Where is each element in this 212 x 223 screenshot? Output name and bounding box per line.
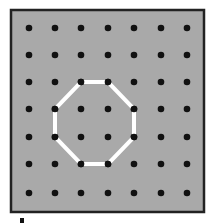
peg xyxy=(131,25,138,32)
peg xyxy=(52,190,59,197)
peg xyxy=(184,79,191,86)
peg xyxy=(52,52,59,59)
peg xyxy=(158,52,165,59)
vertex-peg xyxy=(78,79,85,86)
peg xyxy=(105,106,112,113)
peg xyxy=(78,25,85,32)
peg xyxy=(105,134,112,141)
peg xyxy=(78,52,85,59)
peg xyxy=(78,190,85,197)
vertex-peg xyxy=(131,106,138,113)
peg xyxy=(131,161,138,168)
peg xyxy=(158,25,165,32)
peg xyxy=(184,52,191,59)
peg xyxy=(158,106,165,113)
peg xyxy=(52,161,59,168)
peg xyxy=(184,106,191,113)
peg xyxy=(105,25,112,32)
peg xyxy=(131,79,138,86)
vertex-peg xyxy=(105,79,112,86)
peg xyxy=(26,52,33,59)
peg xyxy=(184,161,191,168)
peg xyxy=(184,134,191,141)
vertex-peg xyxy=(52,106,59,113)
peg xyxy=(184,190,191,197)
vertex-peg xyxy=(105,161,112,168)
peg xyxy=(78,134,85,141)
peg xyxy=(52,79,59,86)
peg xyxy=(78,106,85,113)
peg xyxy=(26,106,33,113)
vertex-peg xyxy=(78,161,85,168)
peg xyxy=(26,134,33,141)
peg xyxy=(26,25,33,32)
peg xyxy=(105,52,112,59)
partial-mark xyxy=(20,218,24,223)
peg xyxy=(158,190,165,197)
peg xyxy=(131,190,138,197)
peg xyxy=(26,161,33,168)
vertex-peg xyxy=(131,134,138,141)
peg xyxy=(184,25,191,32)
peg xyxy=(52,25,59,32)
peg xyxy=(158,134,165,141)
peg xyxy=(158,79,165,86)
peg xyxy=(105,190,112,197)
geoboard xyxy=(0,0,212,223)
peg xyxy=(26,190,33,197)
vertex-peg xyxy=(52,134,59,141)
peg xyxy=(26,79,33,86)
peg xyxy=(158,161,165,168)
peg xyxy=(131,52,138,59)
